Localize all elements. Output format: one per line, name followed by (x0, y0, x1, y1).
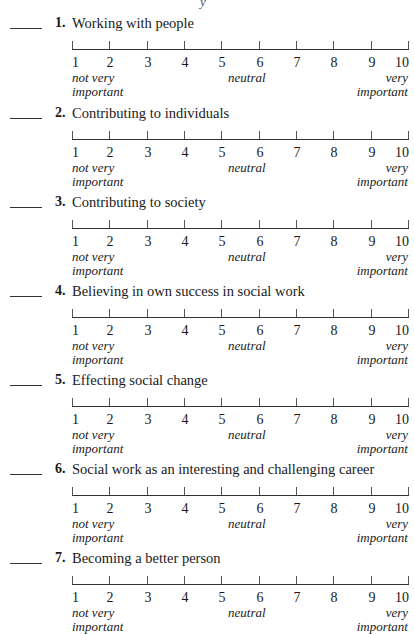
scale-tick[interactable] (296, 576, 297, 584)
scale-tick[interactable] (371, 220, 372, 228)
scale-tick[interactable] (259, 309, 260, 317)
scale-tick[interactable] (221, 398, 222, 406)
scale-tick[interactable] (221, 220, 222, 228)
scale-tick[interactable] (333, 487, 334, 495)
scale-tick[interactable] (408, 487, 409, 495)
scale-tick[interactable] (72, 309, 73, 317)
scale-tick[interactable] (184, 576, 185, 584)
scale-tick[interactable] (408, 41, 409, 49)
rating-scale[interactable] (72, 487, 409, 501)
scale-tick[interactable] (333, 131, 334, 139)
scale-tick[interactable] (147, 398, 148, 406)
scale-low-label: not very important (72, 250, 123, 278)
scale-tick[interactable] (147, 131, 148, 139)
scale-tick[interactable] (333, 309, 334, 317)
scale-tick[interactable] (72, 131, 73, 139)
scale-tick[interactable] (184, 309, 185, 317)
scale-tick[interactable] (408, 576, 409, 584)
page-header-fragment: y (200, 0, 206, 10)
scale-tick[interactable] (296, 398, 297, 406)
scale-tick[interactable] (296, 131, 297, 139)
scale-tick[interactable] (72, 487, 73, 495)
scale-tick[interactable] (371, 309, 372, 317)
scale-number: 7 (294, 323, 301, 339)
scale-tick[interactable] (109, 398, 110, 406)
item-number: 7. (55, 550, 66, 566)
scale-tick[interactable] (147, 487, 148, 495)
scale-tick[interactable] (221, 41, 222, 49)
scale-tick[interactable] (333, 220, 334, 228)
scale-tick[interactable] (184, 41, 185, 49)
scale-tick[interactable] (371, 576, 372, 584)
scale-tick[interactable] (408, 131, 409, 139)
scale-tick[interactable] (221, 131, 222, 139)
scale-tick[interactable] (109, 41, 110, 49)
scale-number: 6 (257, 501, 264, 517)
answer-blank[interactable] (10, 474, 42, 475)
rating-scale[interactable] (72, 220, 409, 234)
answer-blank[interactable] (10, 28, 42, 29)
scale-tick[interactable] (184, 220, 185, 228)
scale-tick[interactable] (371, 41, 372, 49)
rating-scale[interactable] (72, 309, 409, 323)
scale-tick[interactable] (296, 309, 297, 317)
scale-tick[interactable] (259, 487, 260, 495)
scale-tick[interactable] (147, 41, 148, 49)
scale-tick[interactable] (221, 309, 222, 317)
scale-tick[interactable] (259, 576, 260, 584)
scale-tick[interactable] (259, 41, 260, 49)
rating-scale[interactable] (72, 576, 409, 590)
scale-mid-label: neutral (228, 161, 266, 175)
scale-tick[interactable] (408, 398, 409, 406)
scale-tick[interactable] (147, 576, 148, 584)
answer-blank[interactable] (10, 385, 42, 386)
scale-tick[interactable] (109, 220, 110, 228)
scale-tick[interactable] (296, 220, 297, 228)
scale-high-label: very important (357, 250, 408, 278)
scale-tick[interactable] (72, 576, 73, 584)
answer-blank[interactable] (10, 563, 42, 564)
answer-blank[interactable] (10, 207, 42, 208)
scale-tick[interactable] (408, 220, 409, 228)
scale-tick[interactable] (371, 131, 372, 139)
scale-number: 1 (72, 145, 79, 161)
scale-number: 10 (395, 412, 409, 428)
answer-blank[interactable] (10, 296, 42, 297)
scale-tick[interactable] (109, 576, 110, 584)
scale-number: 6 (257, 55, 264, 71)
scale-tick[interactable] (333, 576, 334, 584)
rating-scale[interactable] (72, 41, 409, 55)
scale-numbers: 12345678910 (72, 55, 409, 71)
scale-axis (72, 495, 409, 496)
scale-tick[interactable] (72, 398, 73, 406)
scale-axis (72, 139, 409, 140)
scale-tick[interactable] (333, 398, 334, 406)
scale-tick[interactable] (184, 487, 185, 495)
scale-tick[interactable] (296, 41, 297, 49)
answer-blank[interactable] (10, 118, 42, 119)
scale-tick[interactable] (408, 309, 409, 317)
scale-tick[interactable] (259, 398, 260, 406)
scale-tick[interactable] (221, 487, 222, 495)
low-label-line1: not very (72, 250, 123, 264)
scale-tick[interactable] (333, 41, 334, 49)
scale-tick[interactable] (109, 309, 110, 317)
scale-tick[interactable] (259, 220, 260, 228)
rating-scale[interactable] (72, 131, 409, 145)
scale-tick[interactable] (109, 487, 110, 495)
scale-low-label: not very important (72, 161, 123, 189)
scale-tick[interactable] (259, 131, 260, 139)
scale-tick[interactable] (147, 220, 148, 228)
scale-tick[interactable] (371, 398, 372, 406)
scale-tick[interactable] (109, 131, 110, 139)
scale-tick[interactable] (72, 41, 73, 49)
scale-number: 7 (294, 412, 301, 428)
rating-scale[interactable] (72, 398, 409, 412)
scale-tick[interactable] (184, 398, 185, 406)
scale-tick[interactable] (147, 309, 148, 317)
scale-tick[interactable] (371, 487, 372, 495)
scale-tick[interactable] (72, 220, 73, 228)
scale-tick[interactable] (184, 131, 185, 139)
scale-tick[interactable] (296, 487, 297, 495)
scale-tick[interactable] (221, 576, 222, 584)
